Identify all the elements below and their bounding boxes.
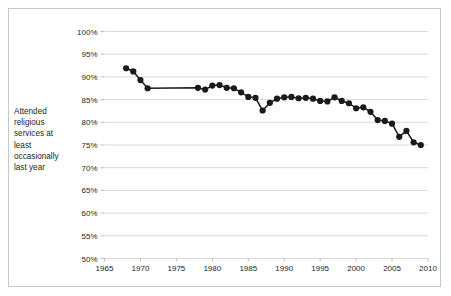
y-axis-tick-label: 55% — [81, 232, 97, 241]
data-point-marker — [145, 85, 151, 91]
data-point-marker — [367, 109, 373, 115]
data-point-marker — [353, 105, 359, 111]
data-point-marker — [346, 100, 352, 106]
data-point-marker — [339, 98, 345, 104]
chart-plot-area: 100%95%90%85%80%75%70%65%60%55%50% 19651… — [0, 0, 451, 296]
data-point-marker — [310, 96, 316, 102]
x-axis-tick-label: 1985 — [239, 264, 257, 273]
data-point-marker — [288, 94, 294, 100]
x-axis-tick-label: 1990 — [275, 264, 293, 273]
data-point-marker — [137, 77, 143, 83]
y-axis-tick-label: 50% — [81, 255, 97, 264]
y-axis-tick-label: 65% — [81, 186, 97, 195]
data-point-marker — [331, 94, 337, 100]
data-point-marker — [123, 65, 129, 71]
data-point-marker — [324, 98, 330, 104]
x-axis-tick-label: 2005 — [383, 264, 401, 273]
x-axis-tick-label: 1980 — [203, 264, 221, 273]
data-point-marker — [274, 96, 280, 102]
data-point-marker — [224, 85, 230, 91]
x-axis-tick-label: 1995 — [311, 264, 329, 273]
y-axis-tick-label: 60% — [81, 209, 97, 218]
x-axis-tick-label: 2000 — [347, 264, 365, 273]
x-axis-tick-labels: 1965197019751980198519901995200020052010 — [96, 264, 438, 273]
data-point-marker — [281, 94, 287, 100]
data-point-marker — [130, 68, 136, 74]
x-axis-tick-label: 1975 — [167, 264, 185, 273]
y-axis-tick-label: 75% — [81, 141, 97, 150]
data-point-marker — [403, 128, 409, 134]
data-point-marker — [303, 95, 309, 101]
y-axis-tick-labels: 100%95%90%85%80%75%70%65%60%55%50% — [77, 28, 97, 264]
data-point-marker — [418, 142, 424, 148]
y-axis-tick-label: 85% — [81, 96, 97, 105]
y-axis-tick-label: 90% — [81, 73, 97, 82]
data-point-marker — [238, 89, 244, 95]
y-axis-tick-label: 100% — [77, 28, 97, 37]
series-line — [126, 68, 421, 145]
line-chart: 100%95%90%85%80%75%70%65%60%55%50% 19651… — [0, 0, 451, 296]
data-point-marker — [252, 95, 258, 101]
data-point-marker — [296, 95, 302, 101]
data-point-marker — [396, 134, 402, 140]
data-point-marker — [389, 121, 395, 127]
data-point-marker — [260, 107, 266, 113]
x-axis-tick-label: 2010 — [419, 264, 437, 273]
x-axis-tick-label: 1970 — [132, 264, 150, 273]
data-point-marker — [202, 87, 208, 93]
gridlines — [101, 32, 429, 262]
data-point-marker — [375, 117, 381, 123]
data-point-marker — [411, 139, 417, 145]
data-point-marker — [209, 82, 215, 88]
data-point-marker — [382, 118, 388, 124]
y-axis-tick-label: 95% — [81, 50, 97, 59]
y-axis-tick-label: 80% — [81, 118, 97, 127]
data-point-marker — [216, 82, 222, 88]
y-axis-tick-label: 70% — [81, 164, 97, 173]
data-point-marker — [195, 85, 201, 91]
data-point-marker — [317, 98, 323, 104]
x-axis-tick-label: 1965 — [96, 264, 114, 273]
data-point-marker — [267, 100, 273, 106]
data-point-marker — [245, 94, 251, 100]
data-series — [123, 65, 424, 148]
data-point-marker — [360, 104, 366, 110]
data-point-marker — [231, 85, 237, 91]
